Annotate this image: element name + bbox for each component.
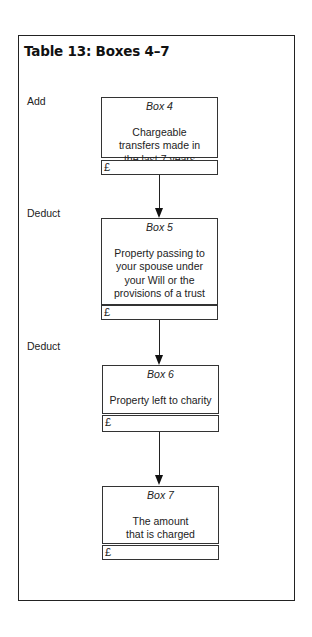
arrow-down-icon (155, 475, 163, 485)
arrow-down-icon (155, 355, 163, 365)
box-5-name: Box 5 (102, 221, 217, 235)
box-7-name: Box 7 (103, 489, 218, 503)
box-6-name: Box 6 (103, 368, 218, 382)
pound-sign-icon: £ (105, 546, 111, 558)
box-6-amount-field[interactable]: £ (102, 415, 219, 432)
operation-label-add: Add (27, 95, 46, 107)
box-7-description: The amount that is charged (103, 515, 218, 542)
connector-line (159, 320, 160, 356)
pound-sign-icon: £ (104, 161, 110, 173)
box-6-description: Property left to charity (103, 394, 218, 408)
box-4-name: Box 4 (102, 100, 217, 114)
box-5-description: Property passing to your spouse under yo… (102, 247, 217, 301)
connector-line (159, 432, 160, 476)
pound-sign-icon: £ (105, 416, 111, 428)
box-6: Box 6 Property left to charity (102, 365, 219, 414)
box-7-amount-field[interactable]: £ (102, 545, 219, 560)
table-title: Table 13: Boxes 4–7 (24, 43, 170, 59)
operation-label-deduct-1: Deduct (27, 207, 60, 219)
operation-label-deduct-2: Deduct (27, 340, 60, 352)
box-5-amount-field[interactable]: £ (101, 305, 218, 320)
box-4-amount-field[interactable]: £ (101, 160, 218, 175)
pound-sign-icon: £ (104, 306, 110, 318)
arrow-down-icon (155, 208, 163, 218)
connector-line (159, 175, 160, 209)
box-5: Box 5 Property passing to your spouse un… (101, 218, 218, 305)
box-7: Box 7 The amount that is charged (102, 486, 219, 544)
box-4: Box 4 Chargeable transfers made in the l… (101, 97, 218, 158)
